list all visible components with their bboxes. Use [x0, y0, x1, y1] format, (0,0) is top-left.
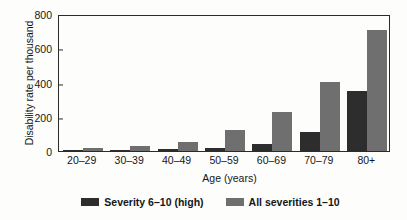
bar — [225, 130, 245, 151]
y-tick-label: 200 — [32, 112, 52, 124]
bar — [63, 150, 83, 151]
chart-legend: Severity 6–10 (high)All severities 1–10 — [0, 196, 407, 208]
x-tick-label: 60–69 — [257, 154, 286, 166]
bar — [205, 148, 225, 151]
bar-group — [344, 30, 391, 151]
y-tick-mark — [59, 50, 63, 51]
x-tick-label: 70–79 — [304, 154, 333, 166]
x-tick-label: 50–59 — [209, 154, 238, 166]
legend-label: All severities 1–10 — [249, 196, 340, 208]
bar — [130, 146, 150, 151]
bar-group — [249, 112, 296, 151]
bar — [252, 144, 272, 151]
x-tick-label: 20–29 — [67, 154, 96, 166]
y-tick-label: 600 — [32, 43, 52, 55]
legend-item: Severity 6–10 (high) — [81, 196, 203, 208]
legend-swatch — [226, 198, 244, 206]
y-tick-mark — [59, 84, 63, 85]
bar-group — [201, 130, 248, 151]
disability-rate-bar-chart: Disability rate per thousand 02004006008… — [0, 0, 407, 220]
bar — [83, 148, 103, 151]
legend-item: All severities 1–10 — [226, 196, 340, 208]
legend-swatch — [81, 198, 99, 206]
y-tick-label: 400 — [32, 78, 52, 90]
bar — [178, 142, 198, 151]
x-tick-label: 80+ — [357, 154, 375, 166]
bar — [367, 30, 387, 151]
x-tick-label: 40–49 — [162, 154, 191, 166]
y-tick-label: 800 — [32, 9, 52, 21]
bar — [320, 82, 340, 151]
bar-group — [106, 146, 153, 151]
bar — [158, 149, 178, 151]
bar-group — [296, 82, 343, 151]
bar — [347, 91, 367, 151]
y-tick-mark — [59, 118, 63, 119]
legend-label: Severity 6–10 (high) — [104, 196, 203, 208]
bar — [300, 132, 320, 151]
plot-area — [58, 15, 390, 152]
bar — [110, 150, 130, 151]
bar-group — [59, 148, 106, 151]
bar-group — [154, 142, 201, 151]
x-tick-label: 30–39 — [115, 154, 144, 166]
x-axis-title: Age (years) — [0, 172, 407, 184]
y-tick-label: 0 — [32, 146, 52, 158]
bar — [272, 112, 292, 151]
